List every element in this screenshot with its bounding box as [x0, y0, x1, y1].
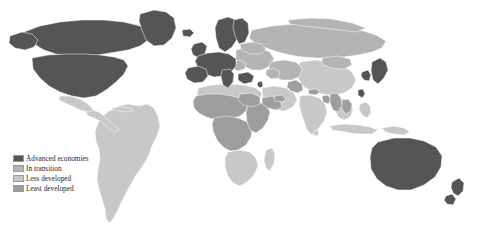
legend-swatch-advanced: [13, 155, 24, 162]
legend-swatch-least-developed: [13, 185, 24, 192]
world-map-figure: Advanced economies In transition Less de…: [0, 0, 498, 234]
world-map-svg: [0, 0, 498, 234]
legend-label-least-developed: Least developed: [26, 185, 74, 193]
legend-swatch-less-developed: [13, 175, 24, 182]
legend-swatch-transition: [13, 165, 24, 172]
legend-label-less-developed: Less developed: [26, 175, 71, 183]
legend-label-advanced: Advanced economies: [26, 155, 89, 163]
legend-item-advanced: Advanced economies: [13, 154, 89, 163]
legend-label-transition: In transition: [26, 165, 62, 173]
map-legend: Advanced economies In transition Less de…: [13, 154, 89, 193]
legend-item-least-developed: Least developed: [13, 184, 89, 193]
legend-item-less-developed: Less developed: [13, 174, 89, 183]
legend-item-transition: In transition: [13, 164, 89, 173]
